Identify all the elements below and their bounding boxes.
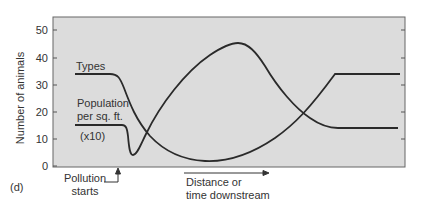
y-tick-label: 40 xyxy=(36,52,48,64)
y-tick-label: 0 xyxy=(42,160,48,172)
plot-area xyxy=(53,17,405,167)
population-label: Population xyxy=(77,97,129,109)
y-tick-label: 50 xyxy=(36,24,48,36)
x-axis-label: Distance or xyxy=(186,176,242,188)
population-label: per sq. ft. xyxy=(77,110,123,122)
x-axis-label: time downstream xyxy=(186,189,270,201)
distance-arrow-icon xyxy=(184,171,269,176)
y-tick-label: 30 xyxy=(36,79,48,91)
types-label: Types xyxy=(76,60,106,72)
y-axis-label: Number of animals xyxy=(14,51,26,144)
population-label: (x10) xyxy=(80,130,105,142)
y-tick-label: 10 xyxy=(36,133,48,145)
y-tick-label: 20 xyxy=(36,106,48,118)
pollution-annotation: starts xyxy=(72,185,99,197)
panel-label: (d) xyxy=(10,181,23,193)
chart: 0 10 20 30 40 50 Number of animals Types… xyxy=(0,0,421,206)
pollution-arrow-icon xyxy=(104,168,121,182)
pollution-annotation: Pollution xyxy=(64,172,106,184)
